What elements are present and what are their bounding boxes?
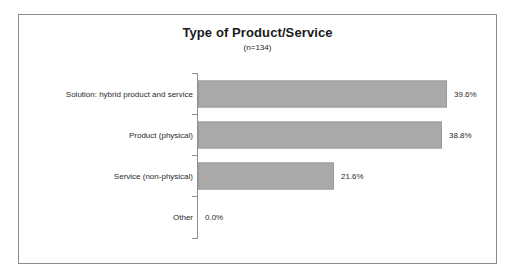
chart-row: Other 0.0% — [19, 196, 496, 237]
chart-row: Product (physical) 38.8% — [19, 114, 496, 155]
bar — [198, 162, 334, 189]
axis-tick-bottom — [192, 238, 197, 239]
bar-value-label: 21.6% — [341, 171, 364, 180]
bar-value-label: 38.8% — [449, 130, 472, 139]
chart-figure: Type of Product/Service (n=134) Solution… — [18, 14, 497, 264]
bar-group: 0.0% — [198, 203, 223, 230]
chart-title: Type of Product/Service — [19, 25, 496, 40]
plot-area: Solution: hybrid product and service 39.… — [19, 59, 496, 259]
bar-value-label: 39.6% — [454, 89, 477, 98]
bar-group: 21.6% — [198, 162, 364, 189]
category-label: Other — [173, 212, 193, 221]
category-label: Solution: hybrid product and service — [66, 89, 193, 98]
category-label: Service (non-physical) — [114, 171, 193, 180]
bar-group: 39.6% — [198, 80, 477, 107]
chart-row: Service (non-physical) 21.6% — [19, 155, 496, 196]
bar — [198, 121, 442, 148]
bar-value-label: 0.0% — [205, 212, 223, 221]
bar — [198, 80, 447, 107]
title-block: Type of Product/Service (n=134) — [19, 25, 496, 53]
chart-subtitle: (n=134) — [19, 42, 496, 53]
bar-group: 38.8% — [198, 121, 472, 148]
chart-row: Solution: hybrid product and service 39.… — [19, 73, 496, 114]
category-label: Product (physical) — [129, 130, 193, 139]
